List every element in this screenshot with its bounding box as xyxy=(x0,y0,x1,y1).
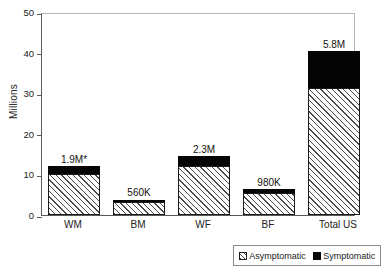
legend-item-asymptomatic: Asymptomatic xyxy=(239,251,306,261)
hatched-swatch-icon xyxy=(239,252,247,260)
bar-total-us: 5.8M xyxy=(308,51,360,215)
bar-segment-symptomatic xyxy=(178,156,230,165)
y-tick-label: 0 xyxy=(6,210,34,221)
stacked-bar-chart: Millions 50 40 30 20 10 0 xyxy=(0,0,386,275)
y-tick-label: 50 xyxy=(6,7,34,18)
y-tick-mark xyxy=(37,135,42,136)
y-tick-mark xyxy=(37,14,42,15)
bar-value-label-total-us: 5.8M xyxy=(323,39,345,50)
y-tick-label: 20 xyxy=(6,129,34,140)
plot-area: 50 40 30 20 10 0 1.9M* xyxy=(41,13,355,216)
bar-segment-asymptomatic xyxy=(243,193,295,215)
legend-label-symptomatic: Symptomatic xyxy=(323,251,375,261)
x-tick-label-bm: BM xyxy=(112,219,164,230)
x-tick-label-wf: WF xyxy=(177,219,229,230)
black-swatch-icon xyxy=(313,252,321,260)
bar-value-label-bm: 560K xyxy=(127,187,150,198)
chart-legend: Asymptomatic Symptomatic xyxy=(233,245,381,266)
y-tick-label: 40 xyxy=(6,48,34,59)
bar-segment-symptomatic xyxy=(48,166,100,174)
bar-bm: 560K xyxy=(113,200,165,215)
bar-value-label-wm: 1.9M* xyxy=(61,154,87,165)
bar-wm: 1.9M* xyxy=(48,166,100,215)
y-tick-mark xyxy=(37,217,42,218)
y-tick-label: 10 xyxy=(6,169,34,180)
bar-wf: 2.3M xyxy=(178,156,230,215)
y-tick-mark xyxy=(37,95,42,96)
bar-value-label-wf: 2.3M xyxy=(193,144,215,155)
y-tick-mark xyxy=(37,54,42,55)
bar-segment-asymptomatic xyxy=(178,166,230,216)
legend-item-symptomatic: Symptomatic xyxy=(313,251,376,261)
y-tick-mark xyxy=(37,176,42,177)
legend-label-asymptomatic: Asymptomatic xyxy=(249,251,306,261)
y-tick-label: 30 xyxy=(6,88,34,99)
bar-segment-asymptomatic xyxy=(48,174,100,215)
bar-value-label-bf: 980K xyxy=(257,177,280,188)
bar-segment-asymptomatic xyxy=(308,88,360,215)
x-tick-label-total-us: Total US xyxy=(307,219,369,230)
x-tick-label-wm: WM xyxy=(47,219,99,230)
bar-segment-asymptomatic xyxy=(113,202,165,215)
bar-segment-symptomatic xyxy=(308,51,360,88)
bar-bf: 980K xyxy=(243,189,295,215)
x-tick-label-bf: BF xyxy=(242,219,294,230)
